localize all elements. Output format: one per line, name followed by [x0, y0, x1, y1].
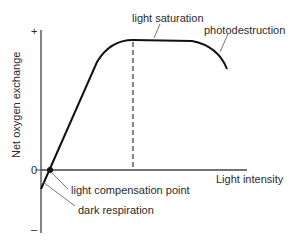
- label-light-compensation-point: light compensation point: [71, 185, 190, 196]
- x-axis-label: Light intensity: [216, 174, 283, 185]
- leader-photodestruction: [220, 34, 228, 52]
- tick-minus-label: –: [31, 224, 37, 235]
- label-dark-respiration: dark respiration: [78, 205, 154, 216]
- photosynthesis-curve: [41, 40, 227, 189]
- label-light-saturation: light saturation: [132, 13, 204, 24]
- label-photodestruction: photodestruction: [204, 25, 285, 36]
- leader-light-saturation: [154, 24, 160, 38]
- leader-compensation: [52, 173, 68, 189]
- tick-plus-label: +: [31, 26, 37, 37]
- compensation-point-dot: [47, 167, 53, 173]
- tick-zero-label: 0: [31, 165, 37, 176]
- y-axis-label: Net oxygen exchange: [11, 52, 22, 158]
